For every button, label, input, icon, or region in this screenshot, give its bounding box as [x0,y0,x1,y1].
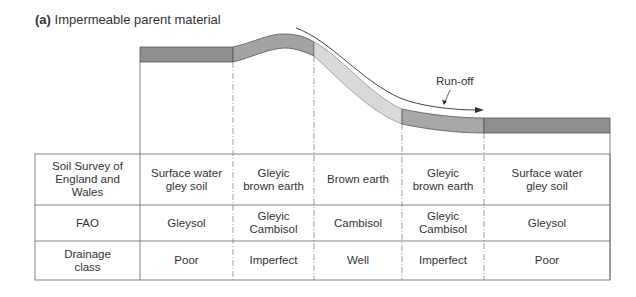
table-cell: Gleysol [140,205,233,241]
table-cell: Gleysol [484,205,610,241]
table-cell: Gleyic brown earth [402,154,484,205]
row-header-fao: FAO [35,205,140,241]
runoff-label: Run-off [436,75,474,87]
runoff-arrow-head [475,107,484,113]
table-cell: Cambisol [314,205,402,241]
table-cell: Poor [484,241,610,280]
table-cell: Brown earth [314,154,402,205]
band-left-plateau [140,47,233,62]
table-cell: Surface water gley soil [484,154,610,205]
table-cell: Poor [140,241,233,280]
table-cell: Gleyic Cambisol [402,205,484,241]
band-right-plain [484,118,610,133]
row-header-drainage: Drainage class [35,241,140,280]
band-crest [233,34,314,62]
table-cell: Well [314,241,402,280]
table-cell: Gleyic Cambisol [233,205,314,241]
band-slope [314,42,402,124]
band-footslope [402,109,484,133]
table-cell: Gleyic brown earth [233,154,314,205]
runoff-arrow-line [296,28,478,110]
row-header-soil-survey: Soil Survey of England and Wales [35,154,140,205]
table-cell: Imperfect [402,241,484,280]
table-cell: Surface water gley soil [140,154,233,205]
table-cell: Imperfect [233,241,314,280]
